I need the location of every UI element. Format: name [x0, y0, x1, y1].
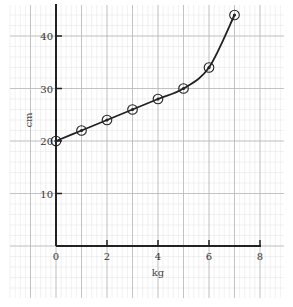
grid-minor: [10, 5, 284, 298]
x-tick-label: 4: [155, 251, 161, 262]
y-axis-label: cm: [23, 112, 34, 128]
x-axis-label: kg: [152, 267, 165, 278]
y-tick-label: 30: [40, 84, 53, 95]
y-tick-label: 40: [40, 31, 53, 42]
y-tick-label: 10: [40, 189, 53, 200]
x-tick-label: 2: [104, 251, 110, 262]
x-tick-label: 0: [53, 251, 59, 262]
line-chart: 0246810203040 kg cm: [0, 0, 293, 307]
axis-ticks: 0246810203040: [40, 31, 263, 262]
x-tick-label: 6: [206, 251, 212, 262]
x-tick-label: 8: [257, 251, 263, 262]
